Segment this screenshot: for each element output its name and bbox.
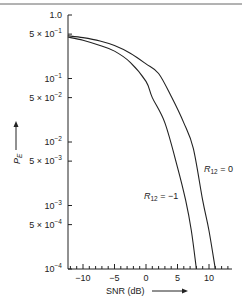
y-tick-label: 10−3	[45, 199, 63, 211]
curve-r12-minus-1	[68, 37, 197, 269]
y-axis-title: PE	[12, 121, 23, 164]
chart: 1.05 × 10−110−15 × 10−210−25 × 10−310−35…	[0, 0, 242, 304]
y-tick-label: 10−2	[45, 135, 63, 147]
y-tick-label: 5 × 10−4	[29, 218, 62, 230]
x-tick-label: 0	[143, 273, 148, 283]
y-tick-label: 5 × 10−3	[29, 154, 62, 166]
curves	[68, 36, 215, 269]
x-tick-label: −10	[75, 273, 90, 283]
x-tick-label: 5	[175, 273, 180, 283]
y-tick-label: 1.0	[49, 10, 62, 20]
curve-labels: R12 = 0R12 = −1	[144, 164, 233, 202]
label-r12-0: R12 = 0	[204, 164, 233, 175]
y-tick-label: 10−4	[45, 262, 63, 274]
x-tick-label: 10	[204, 273, 214, 283]
arrowhead-icon	[14, 121, 19, 127]
y-axis-label: PE	[12, 153, 23, 164]
y-tick-label: 5 × 10−1	[29, 27, 62, 39]
curve-r12-0	[68, 36, 215, 269]
y-tick-label: 10−1	[45, 72, 63, 84]
x-axis-title: SNR (dB)	[106, 286, 188, 296]
x-axis-label: SNR (dB)	[106, 286, 145, 296]
x-axis: −10−50510	[68, 264, 232, 283]
arrowhead-icon	[182, 289, 188, 294]
y-axis: 1.05 × 10−110−15 × 10−210−25 × 10−310−35…	[29, 10, 72, 274]
y-tick-label: 5 × 10−2	[29, 91, 62, 103]
x-tick-label: −5	[109, 273, 119, 283]
label-r12-minus-1: R12 = −1	[144, 191, 178, 202]
